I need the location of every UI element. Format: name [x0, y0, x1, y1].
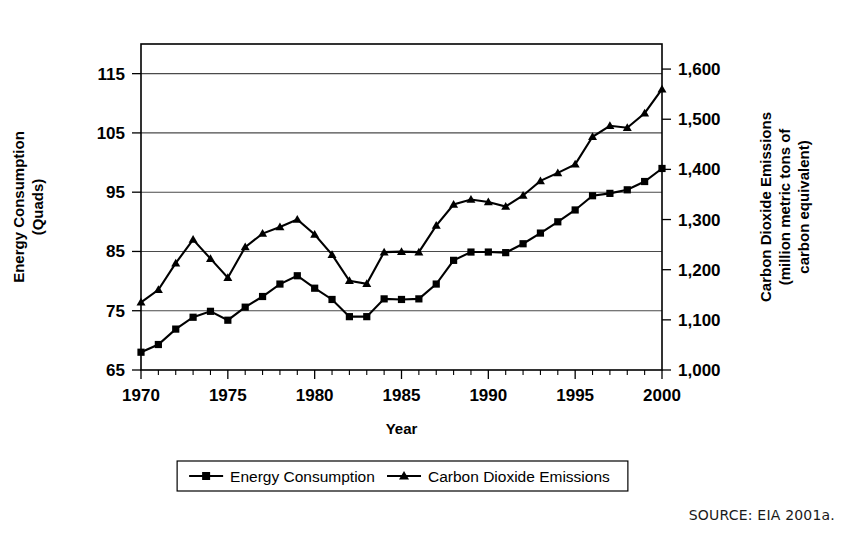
y-axis-left-ticks — [132, 74, 141, 370]
y-axis-left-label-line: (Quads) — [29, 179, 46, 236]
y-tick-label-left: 115 — [98, 65, 125, 84]
x-tick-label: 1990 — [469, 386, 507, 405]
marker-square — [537, 229, 544, 236]
marker-square — [202, 472, 210, 480]
marker-triangle — [293, 215, 302, 223]
x-tick-label: 1975 — [209, 386, 247, 405]
plot-frame — [141, 44, 662, 370]
marker-square — [398, 296, 405, 303]
marker-square — [433, 280, 440, 287]
y-axis-right-label-line: (million metric tons of — [776, 128, 793, 286]
marker-square — [502, 249, 509, 256]
y-tick-label-right: 1,300 — [678, 211, 721, 230]
y-tick-label-left: 65 — [106, 361, 125, 380]
x-tick-label: 1995 — [556, 386, 594, 405]
marker-square — [294, 272, 301, 279]
marker-square — [572, 206, 579, 213]
y-axis-left-tick-labels: 65758595105115 — [97, 65, 125, 380]
series-line — [141, 168, 662, 352]
marker-square — [467, 248, 474, 255]
marker-triangle — [466, 195, 475, 203]
y-tick-label-left: 105 — [97, 124, 125, 143]
marker-square — [155, 341, 162, 348]
marker-square — [658, 165, 665, 172]
marker-square — [328, 296, 335, 303]
legend-label: Energy Consumption — [230, 468, 375, 485]
marker-square — [207, 308, 214, 315]
marker-square — [519, 240, 526, 247]
y-axis-right-title: Carbon Dioxide Emissions(million metric … — [757, 112, 812, 302]
marker-square — [190, 314, 197, 321]
x-axis-tick-labels: 1970197519801985199019952000 — [122, 386, 681, 405]
marker-square — [259, 293, 266, 300]
line-chart: 1970197519801985199019952000 65758595105… — [0, 0, 853, 537]
y-tick-label-right: 1,400 — [678, 160, 721, 179]
y-tick-label-left: 95 — [106, 183, 125, 202]
y-tick-label-left: 85 — [106, 242, 125, 261]
chart-legend: Energy ConsumptionCarbon Dioxide Emissio… — [177, 461, 628, 491]
y-tick-label-right: 1,600 — [678, 60, 721, 79]
y-axis-right-ticks — [662, 69, 671, 370]
marker-square — [606, 190, 613, 197]
x-tick-label: 1980 — [296, 386, 334, 405]
x-axis-label: Year — [386, 420, 418, 437]
x-tick-label: 1985 — [383, 386, 421, 405]
marker-square — [641, 178, 648, 185]
x-axis-title: Year — [386, 420, 418, 437]
series-2 — [137, 85, 667, 306]
marker-square — [276, 280, 283, 287]
marker-square — [589, 192, 596, 199]
y-axis-left-title: Energy Consumption(Quads) — [10, 131, 46, 283]
marker-square — [172, 326, 179, 333]
data-series-group — [137, 85, 667, 356]
series-line — [141, 89, 662, 302]
y-axis-right-label-line: Carbon Dioxide Emissions — [757, 112, 774, 302]
y-tick-label-left: 75 — [106, 302, 125, 321]
marker-square — [415, 295, 422, 302]
marker-square — [311, 285, 318, 292]
marker-square — [242, 304, 249, 311]
marker-square — [381, 295, 388, 302]
y-axis-right-label: Carbon Dioxide Emissions(million metric … — [757, 112, 812, 302]
marker-square — [554, 218, 561, 225]
marker-square — [346, 313, 353, 320]
y-tick-label-right: 1,500 — [678, 110, 721, 129]
marker-square — [363, 313, 370, 320]
x-tick-label: 1970 — [122, 386, 160, 405]
marker-triangle — [658, 85, 667, 93]
y-axis-right-label-line: carbon equivalent) — [795, 140, 812, 273]
figure-container: 1970197519801985199019952000 65758595105… — [0, 0, 853, 537]
plot-border — [141, 44, 662, 370]
marker-square — [137, 349, 144, 356]
y-tick-label-right: 1,000 — [678, 361, 721, 380]
y-axis-left-label-line: Energy Consumption — [10, 131, 27, 283]
marker-square — [450, 257, 457, 264]
legend-label: Carbon Dioxide Emissions — [428, 468, 610, 485]
marker-triangle — [189, 235, 198, 243]
y-axis-right-tick-labels: 1,0001,1001,2001,3001,4001,5001,600 — [678, 60, 721, 380]
marker-square — [485, 248, 492, 255]
y-axis-left-label: Energy Consumption(Quads) — [10, 131, 46, 283]
source-note: SOURCE: EIA 2001a. — [689, 507, 835, 523]
x-tick-label: 2000 — [643, 386, 681, 405]
marker-square — [224, 317, 231, 324]
y-tick-label-right: 1,200 — [678, 261, 721, 280]
series-1 — [137, 165, 665, 356]
marker-square — [624, 186, 631, 193]
gridlines-group — [141, 74, 662, 311]
y-tick-label-right: 1,100 — [678, 311, 721, 330]
x-axis-ticks — [141, 370, 662, 379]
